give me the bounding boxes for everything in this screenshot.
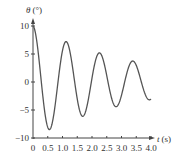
y-tick-label: 5 xyxy=(25,49,30,59)
plot-area: 1050−5−10 00.51.01.52.02.53.03.54.0 xyxy=(15,18,157,153)
x-tick-label: 2.5 xyxy=(101,143,113,153)
x-tick-label: 3.5 xyxy=(131,143,143,153)
y-tick-label: −5 xyxy=(19,105,29,115)
x-tick-label: 4.0 xyxy=(145,143,157,153)
theta-curve xyxy=(33,26,151,130)
x-tick-label: 1.0 xyxy=(57,143,69,153)
x-tick-label: 1.5 xyxy=(72,143,84,153)
y-axis-arrow-icon xyxy=(31,18,35,24)
x-tick-label: 3.0 xyxy=(116,143,128,153)
y-ticks: 1050−5−10 xyxy=(15,21,35,143)
y-tick-label: 0 xyxy=(25,77,30,87)
y-axis-label: θ(°) xyxy=(26,5,42,15)
y-tick-label: 10 xyxy=(20,21,30,31)
chart: 1050−5−10 00.51.01.52.02.53.03.54.0 θ(°)… xyxy=(0,0,184,160)
x-ticks: 00.51.01.52.02.53.03.54.0 xyxy=(31,136,157,153)
x-axis-label: t(s) xyxy=(157,134,171,144)
x-tick-label: 0 xyxy=(31,143,36,153)
x-tick-label: 0.5 xyxy=(42,143,54,153)
y-tick-label: −10 xyxy=(15,133,30,143)
x-tick-label: 2.0 xyxy=(86,143,98,153)
x-axis-arrow-icon xyxy=(149,136,155,140)
